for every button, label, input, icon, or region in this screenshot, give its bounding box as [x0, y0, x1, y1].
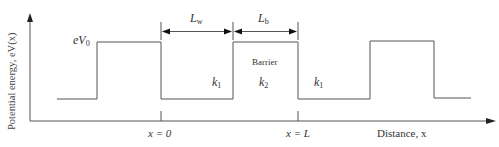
potential-diagram-canvas — [0, 0, 499, 147]
arrow-right-icon — [224, 29, 232, 35]
potential-height-label: eV0 — [73, 34, 90, 48]
k2-label: k2 — [259, 76, 268, 90]
x-axis-arrow-icon — [486, 118, 496, 124]
barrier-label: Barrier — [252, 58, 277, 67]
potential-profile — [57, 41, 471, 99]
k1-right-label: k1 — [314, 76, 323, 90]
k1-left-label: k1 — [212, 76, 221, 90]
arrow-left-icon — [162, 29, 170, 35]
x-axis-label: Distance, x — [377, 128, 426, 139]
y-axis-arrow-icon — [27, 13, 33, 22]
arrow-left-icon — [234, 29, 242, 35]
tick-label-xL: x = L — [286, 128, 310, 139]
y-axis-label: Potential energy, eV(x) — [6, 33, 17, 130]
well-width-label: Lw — [190, 12, 202, 26]
tick-label-x0: x = 0 — [148, 128, 171, 139]
arrow-right-icon — [289, 29, 297, 35]
barrier-width-label: Lb — [258, 12, 269, 26]
